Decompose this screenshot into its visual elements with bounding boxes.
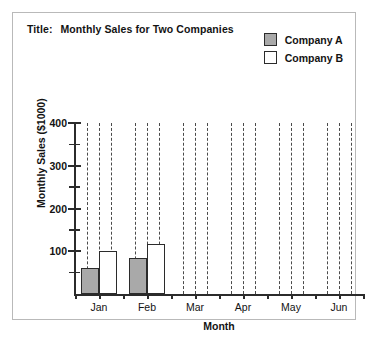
title-text: Monthly Sales for Two Companies [61,23,234,35]
y-tick-minor [69,272,80,274]
plot-area: 100200300400 JanFebMarAprMayJun Month [75,123,363,294]
legend-label-company-a: Company A [285,34,343,46]
x-tick-label: Apr [235,301,251,313]
gridline [255,123,256,294]
y-tick-label: 300 [49,160,67,172]
x-tick [75,294,77,299]
bar [81,268,99,294]
legend-label-company-b: Company B [285,52,343,64]
gridline [291,123,292,294]
x-tick-label: Feb [138,301,156,313]
y-tick-major [68,250,81,252]
x-tick [195,294,197,299]
x-tick-label: Jan [91,301,108,313]
gridline [279,123,280,294]
gridline [303,123,304,294]
gridline [231,123,232,294]
bar [99,251,117,294]
chart-legend: Company A Company B [264,33,343,64]
x-tick [267,294,269,299]
bar [129,258,147,294]
y-tick-label: 100 [49,245,67,257]
chart-frame: Title:Monthly Sales for Two Companies Co… [12,12,356,320]
bar [147,244,165,294]
y-tick-major [68,165,81,167]
gridline [339,123,340,294]
x-tick [123,294,125,299]
y-tick-label: 400 [49,117,67,129]
title-prefix-label: Title: [27,23,53,35]
x-tick [315,294,317,299]
y-axis-title: Monthly Sales ($1000) [35,98,47,208]
gridline [207,123,208,294]
x-tick [147,294,149,299]
y-tick-minor [69,186,80,188]
y-tick-label: 200 [49,203,67,215]
y-tick-minor [69,144,80,146]
legend-item-company-b: Company B [264,51,343,64]
chart-title: Title:Monthly Sales for Two Companies [27,23,234,35]
x-tick-label: May [281,301,301,313]
x-tick-label: Mar [186,301,204,313]
y-tick-minor [69,229,80,231]
gridline [351,123,352,294]
x-tick [339,294,341,299]
gridline [195,123,196,294]
x-axis-title: Month [203,320,235,332]
x-tick [243,294,245,299]
x-tick [219,294,221,299]
y-tick-major [68,208,81,210]
x-tick [99,294,101,299]
x-tick [291,294,293,299]
gridline [327,123,328,294]
gridline [243,123,244,294]
x-tick-label: Jun [331,301,348,313]
legend-swatch-company-b [264,51,277,64]
y-tick-major [68,122,81,124]
gridline [183,123,184,294]
x-tick [363,294,365,299]
x-tick [171,294,173,299]
legend-item-company-a: Company A [264,33,343,46]
legend-swatch-company-a [264,33,277,46]
